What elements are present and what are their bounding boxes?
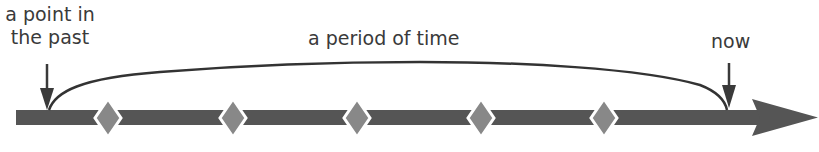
timeline-graphic: [0, 0, 819, 152]
diamond-marker: [95, 99, 121, 137]
diamond-marker: [220, 99, 246, 137]
diamond-marker: [344, 99, 370, 137]
diamond-marker: [591, 99, 617, 137]
timeline-arrowhead-icon: [752, 99, 818, 136]
timeline-bar: [16, 110, 760, 125]
diamond-marker: [468, 99, 494, 137]
period-arc: [49, 62, 727, 110]
